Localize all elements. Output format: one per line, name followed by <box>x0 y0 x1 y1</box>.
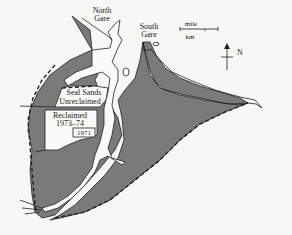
estuary-map: North Gare South Gare Seal Sands Unrecla… <box>0 0 292 235</box>
reclaimed-label-line2: 1973–74 <box>56 119 84 128</box>
scale-mile-label: mile <box>185 20 197 28</box>
unreclaimed-label: Unreclaimed <box>59 97 100 106</box>
channel-island <box>123 68 129 76</box>
scale-bar: mile km <box>180 20 218 41</box>
north-arrow: N <box>221 43 243 70</box>
south-gare-island <box>153 42 159 45</box>
north-arrow-head <box>224 43 230 49</box>
scale-km-label: km <box>186 33 196 41</box>
south-gare-label-line2: Gare <box>141 30 157 39</box>
north-gare-label-line2: Gare <box>94 14 110 23</box>
seal-sands-label: Seal Sands <box>67 88 102 97</box>
reclaimed-1971-label: 1971 <box>77 129 92 137</box>
north-arrow-label: N <box>237 48 243 57</box>
